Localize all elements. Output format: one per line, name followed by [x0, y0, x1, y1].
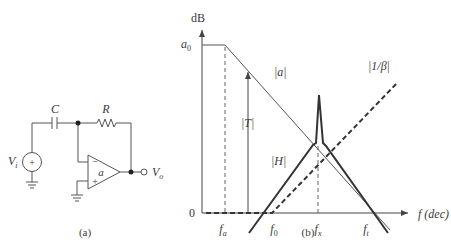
figure: + Vi C R a − + Vo (a) dB a0 0 f (dec) fa…: [0, 0, 451, 250]
junction-dot: [76, 121, 81, 126]
caption-b: (b): [302, 226, 315, 239]
noise-gain-label: |1/β|: [368, 59, 390, 73]
closed-loop-label: |H|: [271, 154, 286, 168]
output-terminal-icon: [141, 169, 147, 175]
ground-icon: [71, 195, 83, 201]
opamp-noninverting-sign: +: [92, 176, 98, 187]
junction-dot: [129, 170, 134, 175]
x-tick-ft: ft: [363, 222, 369, 238]
x-tick-f0: f0: [270, 222, 277, 238]
resistor-icon: [97, 119, 116, 127]
open-loop-label: |a|: [274, 65, 287, 79]
source-label: Vi: [8, 154, 18, 170]
output-label: Vo: [152, 165, 163, 181]
loop-gain-label: |T|: [241, 116, 254, 130]
resistor-label: R: [101, 102, 110, 116]
x-tick-fa: fa: [219, 222, 226, 238]
noise-gain-curve: [206, 82, 398, 213]
y-axis-label: dB: [191, 11, 205, 25]
circuit-panel: [23, 117, 148, 201]
caption-a: (a): [79, 226, 92, 239]
x-axis-label: f (dec): [418, 207, 449, 221]
y-tick-a0: a0: [181, 37, 191, 53]
figure-canvas: + Vi C R a − + Vo (a) dB a0 0 f (dec) fa…: [0, 0, 451, 250]
y-tick-zero: 0: [189, 206, 195, 220]
capacitor-label: C: [51, 102, 60, 116]
voltage-source-icon: [23, 123, 42, 188]
opamp-inverting-sign: −: [92, 156, 98, 167]
x-tick-fx: fx: [315, 222, 322, 238]
open-loop-gain-curve: [202, 45, 390, 230]
opamp-gain-label: a: [98, 166, 104, 178]
source-sign: +: [29, 157, 35, 168]
capacitor-icon: [52, 117, 57, 129]
